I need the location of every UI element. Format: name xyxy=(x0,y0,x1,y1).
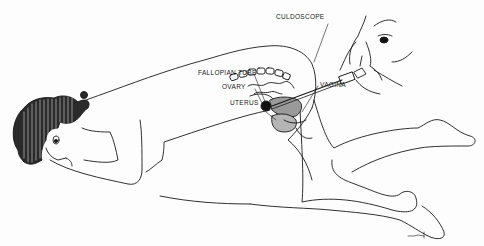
breast-outline xyxy=(146,110,270,172)
label-uterus: UTERUS xyxy=(230,100,259,107)
label-fallopian-tube: FALLOPIAN TUBE xyxy=(198,70,257,77)
doctor-eye-icon xyxy=(380,37,388,43)
arm-left xyxy=(82,128,118,162)
culdoscope-instrument xyxy=(272,56,366,109)
label-culdoscope: CULDOSCOPE xyxy=(276,14,325,21)
leg-back xyxy=(314,100,475,172)
illustration-canvas: CULDOSCOPE FALLOPIAN TUBE OVARY UTERUS V… xyxy=(0,0,484,246)
abdomen-outline xyxy=(160,196,250,204)
doctor-face xyxy=(374,20,412,62)
ovary-shape xyxy=(261,101,271,111)
intestine-squiggle xyxy=(248,81,294,94)
thigh-front xyxy=(300,110,417,212)
hair-shape xyxy=(13,92,89,165)
culdoscopy-drawing xyxy=(0,0,484,246)
arm-lower xyxy=(50,120,142,184)
shin-lower xyxy=(250,204,444,239)
label-ovary: OVARY xyxy=(222,84,246,91)
doctor-hand xyxy=(340,16,402,94)
label-vagina: VAGINA xyxy=(320,82,346,89)
patient-face xyxy=(46,136,72,166)
